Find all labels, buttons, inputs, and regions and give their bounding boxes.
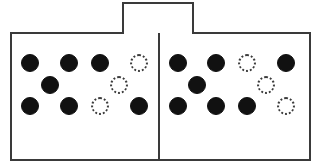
left-compartment — [10, 32, 159, 161]
center-divider — [158, 33, 160, 161]
right-compartment — [160, 32, 311, 161]
diagram-canvas — [0, 0, 325, 168]
